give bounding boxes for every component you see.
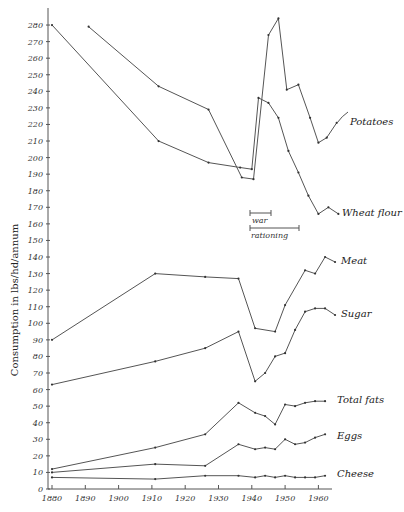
y-tick-label: 280 <box>27 21 43 30</box>
data-point <box>204 347 206 349</box>
y-tick-label: 50 <box>33 402 43 411</box>
data-point <box>304 311 306 313</box>
series-potatoes <box>88 17 338 180</box>
data-point <box>294 476 296 478</box>
data-point <box>51 471 53 473</box>
data-point <box>252 178 254 180</box>
data-point <box>157 140 159 142</box>
data-point <box>314 476 316 478</box>
data-point <box>294 329 296 331</box>
data-point <box>324 256 326 258</box>
data-point <box>237 475 239 477</box>
data-point <box>284 403 286 405</box>
data-point <box>286 89 288 91</box>
data-point <box>304 476 306 478</box>
data-point <box>51 384 53 386</box>
data-point <box>207 161 209 163</box>
data-point <box>254 476 256 478</box>
data-point <box>334 314 336 316</box>
data-point <box>327 206 329 208</box>
war-label: war <box>252 216 269 225</box>
data-point <box>207 108 209 110</box>
data-point <box>337 213 339 215</box>
data-point <box>254 380 256 382</box>
data-point <box>267 102 269 104</box>
data-point <box>324 433 326 435</box>
y-tick-label: 140 <box>28 253 43 262</box>
data-point <box>287 150 289 152</box>
y-tick-label: 170 <box>28 203 43 212</box>
data-point <box>284 352 286 354</box>
series-total-fats <box>51 400 326 470</box>
data-point <box>239 166 241 168</box>
data-point <box>304 402 306 404</box>
y-tick-label: 270 <box>27 38 43 47</box>
data-point <box>304 269 306 271</box>
total-fats-label: Total fats <box>337 394 384 405</box>
potatoes-label: Potatoes <box>349 116 393 127</box>
y-tick-label: 160 <box>28 220 43 229</box>
y-axis-label: Consumption in lbs/hd/annum <box>9 223 20 376</box>
eggs-label: Eggs <box>336 430 362 441</box>
series-eggs <box>51 433 326 473</box>
chart: 0102030405060708090100110120130140150160… <box>0 0 404 512</box>
war-annotation: war <box>250 210 271 225</box>
x-tick-label: 1900 <box>108 494 128 503</box>
rationing-label: rationing <box>251 231 288 240</box>
axes <box>48 8 332 489</box>
y-tick-label: 120 <box>28 286 43 295</box>
y-tick-label: 230 <box>27 104 43 113</box>
data-point <box>294 405 296 407</box>
series-line <box>52 25 338 214</box>
data-point <box>251 168 253 170</box>
y-tick-label: 110 <box>28 303 43 312</box>
y-tick-label: 260 <box>27 54 43 63</box>
wheat-flour-label: Wheat flour <box>342 207 403 218</box>
data-point <box>237 277 239 279</box>
x-tick-label: 1940 <box>242 494 262 503</box>
data-point <box>314 307 316 309</box>
x-tick-label: 1890 <box>75 494 95 503</box>
series-sugar <box>51 307 336 385</box>
y-tick-label: 200 <box>27 154 43 163</box>
y-tick-label: 90 <box>33 336 43 345</box>
y-tick-label: 20 <box>32 452 43 461</box>
data-point <box>284 438 286 440</box>
data-point <box>324 400 326 402</box>
data-point <box>204 276 206 278</box>
x-tick-label: 1930 <box>208 494 228 503</box>
y-tick-label: 30 <box>33 435 43 444</box>
x-tick-label: 1920 <box>175 494 195 503</box>
y-tick-label: 0 <box>38 485 43 494</box>
y-tick-label: 60 <box>33 386 43 395</box>
data-point <box>154 478 156 480</box>
data-point <box>324 475 326 477</box>
series-meat <box>51 256 336 341</box>
axis-ticks: 0102030405060708090100110120130140150160… <box>27 21 329 503</box>
data-point <box>264 415 266 417</box>
sugar-label: Sugar <box>341 308 373 319</box>
potatoes-leader <box>337 112 348 123</box>
series-line <box>52 401 325 469</box>
y-tick-label: 150 <box>28 236 43 245</box>
data-point <box>237 443 239 445</box>
data-point <box>204 433 206 435</box>
data-point <box>157 85 159 87</box>
rationing-annotation: rationing <box>250 225 299 240</box>
y-tick-label: 130 <box>28 270 43 279</box>
y-tick-label: 180 <box>28 187 43 196</box>
y-tick-label: 10 <box>33 468 43 477</box>
data-point <box>277 117 279 119</box>
cheese-label: Cheese <box>337 468 374 479</box>
series-line <box>52 434 325 472</box>
data-point <box>51 339 53 341</box>
data-point <box>264 446 266 448</box>
series-group <box>51 17 340 480</box>
data-point <box>51 468 53 470</box>
data-point <box>154 446 156 448</box>
data-point <box>274 423 276 425</box>
data-point <box>274 476 276 478</box>
data-point <box>254 327 256 329</box>
y-tick-label: 100 <box>28 319 43 328</box>
series-wheat-flour <box>51 24 340 215</box>
